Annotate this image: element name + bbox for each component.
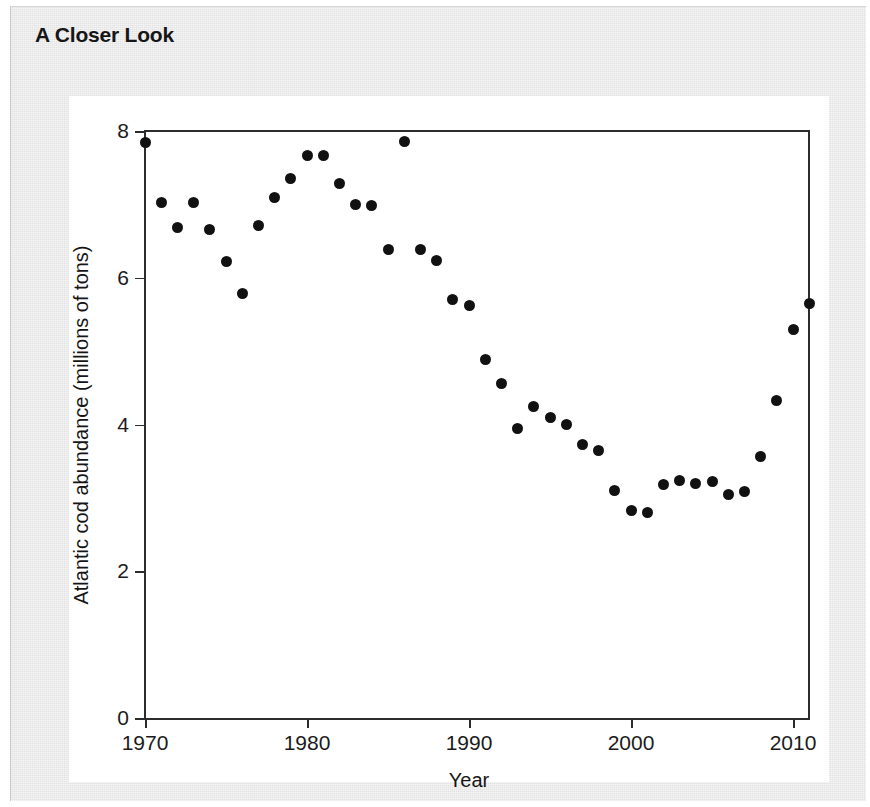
x-tick-label: 1980 [284, 731, 331, 755]
data-point [221, 256, 232, 267]
data-point [690, 478, 701, 489]
data-point [642, 507, 653, 518]
x-tick-label: 2010 [770, 731, 817, 755]
plot-frame-right [808, 130, 810, 718]
data-point [496, 378, 507, 389]
data-point [755, 451, 766, 462]
y-tick: 6 [135, 278, 145, 280]
data-point [658, 479, 669, 490]
data-point [415, 244, 426, 255]
y-tick: 4 [135, 425, 145, 427]
chart-card: 02468 19701980199020002010 Atlantic cod … [69, 96, 829, 782]
data-point [593, 445, 604, 456]
data-point [447, 294, 458, 305]
y-tick-label: 2 [117, 559, 129, 583]
data-point [545, 412, 556, 423]
x-tick [793, 718, 795, 728]
data-point [431, 255, 442, 266]
data-point [237, 288, 248, 299]
y-tick: 8 [135, 131, 145, 133]
x-tick [631, 718, 633, 728]
y-tick-label: 8 [117, 119, 129, 143]
data-point [188, 197, 199, 208]
data-point [172, 222, 183, 233]
data-point [366, 200, 377, 211]
data-point [577, 439, 588, 450]
y-tick-label: 6 [117, 266, 129, 290]
closer-look-panel: A Closer Look 02468 19701980199020002010… [10, 6, 866, 801]
data-point [302, 150, 313, 161]
data-point [383, 244, 394, 255]
data-point [626, 505, 637, 516]
data-point [269, 192, 280, 203]
data-point [334, 178, 345, 189]
data-point [771, 395, 782, 406]
x-tick-label: 2000 [608, 731, 655, 755]
scatter-plot: 02468 19701980199020002010 Atlantic cod … [145, 131, 793, 718]
x-tick-label: 1970 [122, 731, 169, 755]
y-tick-label: 4 [117, 413, 129, 437]
data-point [140, 137, 151, 148]
data-point [674, 475, 685, 486]
data-point [528, 401, 539, 412]
data-point [788, 324, 799, 335]
y-tick-label: 0 [117, 706, 129, 730]
y-axis-label: Atlantic cod abundance (millions of tons… [70, 245, 93, 604]
data-point [739, 486, 750, 497]
data-point [723, 489, 734, 500]
data-point [253, 220, 264, 231]
data-point [285, 173, 296, 184]
data-point [464, 300, 475, 311]
data-point [561, 419, 572, 430]
data-point [350, 199, 361, 210]
data-point [318, 150, 329, 161]
x-tick [307, 718, 309, 728]
x-tick [469, 718, 471, 728]
x-tick [145, 718, 147, 728]
data-point [480, 354, 491, 365]
data-point [804, 298, 815, 309]
page-root: A Closer Look 02468 19701980199020002010… [0, 0, 870, 807]
x-axis-label: Year [449, 769, 489, 792]
data-point [609, 485, 620, 496]
x-axis-line [145, 718, 810, 720]
data-point [204, 224, 215, 235]
plot-frame-top [145, 130, 810, 132]
page-title: A Closer Look [35, 23, 174, 47]
data-point [707, 476, 718, 487]
x-tick-label: 1990 [446, 731, 493, 755]
data-point [399, 136, 410, 147]
data-point [512, 423, 523, 434]
y-tick: 2 [135, 571, 145, 573]
y-tick: 0 [135, 718, 145, 720]
data-point [156, 197, 167, 208]
